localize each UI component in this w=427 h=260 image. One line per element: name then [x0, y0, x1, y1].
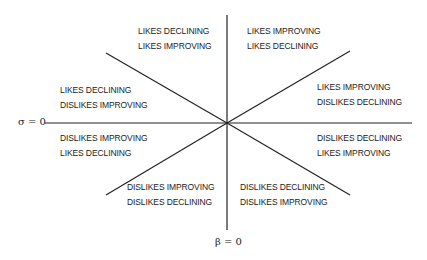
region-line: LIKES DECLINING: [60, 146, 147, 161]
region-line: LIKES IMPROVING: [138, 39, 212, 54]
region-line: LIKES IMPROVING: [317, 146, 402, 161]
region-line: DISLIKES IMPROVING: [60, 98, 147, 113]
region-line: DISLIKES DECLINING: [127, 195, 214, 210]
region-line: DISLIKES DECLINING: [317, 131, 402, 146]
region-line: DISLIKES IMPROVING: [127, 180, 214, 195]
region-top-left: LIKES DECLINING LIKES IMPROVING: [138, 24, 212, 54]
axes-lines: [0, 0, 427, 260]
region-line: LIKES IMPROVING: [317, 80, 402, 95]
beta-axis-label: β = 0: [215, 236, 242, 247]
region-left-lower: DISLIKES IMPROVING LIKES DECLINING: [60, 131, 147, 161]
region-bottom-right: DISLIKES DECLINING DISLIKES IMPROVING: [240, 180, 327, 210]
region-line: LIKES IMPROVING: [247, 24, 321, 39]
region-line: DISLIKES IMPROVING: [60, 131, 147, 146]
region-line: DISLIKES DECLINING: [317, 95, 402, 110]
region-right-lower: DISLIKES DECLINING LIKES IMPROVING: [317, 131, 402, 161]
region-right-upper: LIKES IMPROVING DISLIKES DECLINING: [317, 80, 402, 110]
region-line: DISLIKES IMPROVING: [240, 195, 327, 210]
region-line: LIKES DECLINING: [138, 24, 212, 39]
region-line: LIKES DECLINING: [247, 39, 321, 54]
sigma-axis-label: σ = 0: [18, 116, 46, 127]
region-line: LIKES DECLINING: [60, 83, 147, 98]
region-line: DISLIKES DECLINING: [240, 180, 327, 195]
diagram: σ = 0 β = 0 LIKES DECLINING LIKES IMPROV…: [0, 0, 427, 260]
region-left-upper: LIKES DECLINING DISLIKES IMPROVING: [60, 83, 147, 113]
region-bottom-left: DISLIKES IMPROVING DISLIKES DECLINING: [127, 180, 214, 210]
region-top-right: LIKES IMPROVING LIKES DECLINING: [247, 24, 321, 54]
